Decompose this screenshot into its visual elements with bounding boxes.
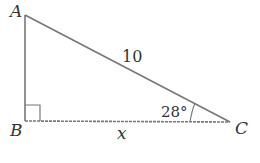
base-label: x [117, 123, 127, 143]
right-angle-marker [25, 105, 40, 121]
side-bc [25, 121, 230, 122]
vertex-c-label: C [235, 118, 248, 138]
hypotenuse-label: 10 [122, 47, 142, 66]
vertex-b-label: B [9, 120, 23, 140]
angle-label: 28° [161, 103, 188, 121]
angle-arc [190, 103, 195, 122]
vertex-a-label: A [8, 1, 22, 21]
side-ac-hypotenuse [25, 15, 230, 122]
triangle-diagram: A B C 10 x 28° [0, 0, 260, 163]
